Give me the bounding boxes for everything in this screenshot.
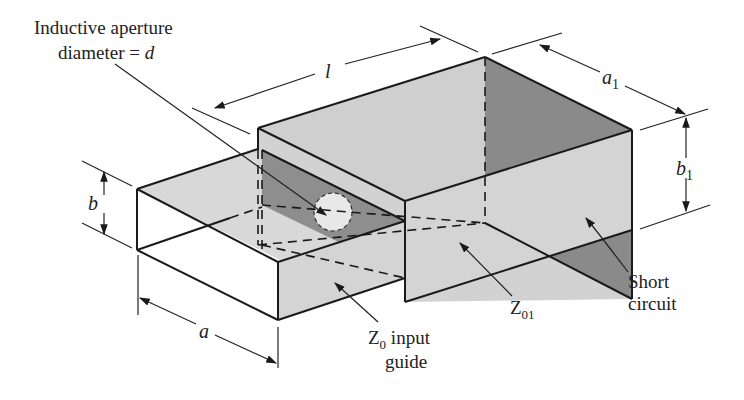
label-z0: Z0 input [368,327,431,352]
label-l: l [325,60,331,82]
dimension-b1 [640,118,710,229]
label-short: Short [628,271,670,292]
label-aperture-line1: Inductive aperture [34,17,173,38]
label-b: b [88,192,98,214]
label-a: a [199,320,209,342]
label-z0-guide: guide [385,351,427,372]
label-a1: a1 [602,66,619,92]
label-z01: Z01 [510,297,535,322]
label-aperture-line2: diameter = d [58,42,155,63]
label-circuit: circuit [628,293,677,314]
label-b1: b1 [676,157,693,183]
inductive-aperture [314,193,352,231]
waveguide-diagram: l a1 b1 b a Inductive aperture diameter … [0,0,744,400]
